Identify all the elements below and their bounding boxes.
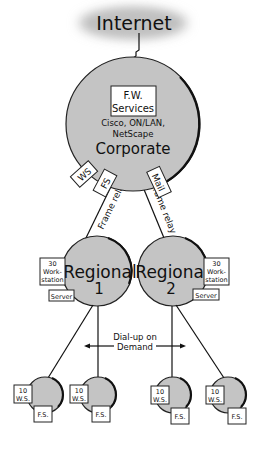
svg-text:30: 30 bbox=[48, 260, 56, 268]
vendors-line1: Cisco, ON/LAN, bbox=[101, 118, 165, 128]
dialup-annotation: Dial-up on Demand bbox=[84, 332, 186, 352]
branch-node-4: 10 W.S. F.S. bbox=[206, 377, 246, 424]
svg-text:Work-: Work- bbox=[43, 268, 62, 276]
svg-text:F.S.: F.S. bbox=[38, 411, 49, 419]
internet-label: Internet bbox=[96, 12, 171, 34]
arrow-left-icon bbox=[84, 344, 90, 349]
branch-link-1 bbox=[48, 305, 93, 378]
branch-node-3: 10 W.S. F.S. bbox=[151, 377, 191, 424]
svg-text:W.S.: W.S. bbox=[16, 395, 30, 403]
dialup-line2: Demand bbox=[117, 342, 153, 352]
svg-text:Server: Server bbox=[195, 292, 217, 300]
arrow-right-icon bbox=[180, 344, 186, 349]
fw-label: F.W. bbox=[123, 90, 142, 101]
regional-1-number: 1 bbox=[94, 280, 104, 298]
branch-node-2: 10 W.S. F.S. bbox=[70, 377, 116, 422]
svg-text:F.S.: F.S. bbox=[232, 413, 243, 421]
dialup-line1: Dial-up on bbox=[113, 332, 157, 342]
svg-text:W.S.: W.S. bbox=[208, 396, 222, 404]
svg-text:F.S.: F.S. bbox=[175, 413, 186, 421]
svg-text:30: 30 bbox=[212, 260, 220, 268]
vendors-line2: NetScape bbox=[113, 129, 154, 139]
network-diagram: Internet Frame relay Frame relay F.W. Se… bbox=[0, 0, 266, 453]
svg-text:station: station bbox=[41, 276, 63, 284]
svg-text:Server: Server bbox=[51, 293, 73, 301]
svg-text:W.S.: W.S. bbox=[153, 396, 167, 404]
svg-text:Work-: Work- bbox=[207, 268, 226, 276]
regional-1-node: Regional 1 30 Work- station Server bbox=[40, 236, 137, 306]
services-label: Services bbox=[112, 103, 154, 114]
svg-text:W.S.: W.S. bbox=[72, 395, 86, 403]
branch-link-4 bbox=[176, 305, 224, 378]
regional-1-title: Regional bbox=[63, 262, 136, 282]
internet-cloud: Internet bbox=[79, 8, 187, 38]
svg-text:F.S.: F.S. bbox=[96, 411, 107, 419]
regional-2-number: 2 bbox=[166, 280, 176, 298]
branch-node-1: 10 W.S. F.S. bbox=[14, 377, 63, 422]
corporate-title: Corporate bbox=[96, 140, 171, 158]
regional-2-title: Regional bbox=[135, 262, 208, 282]
regional-2-node: Regional 2 30 Work- station Server bbox=[135, 236, 229, 306]
svg-text:station: station bbox=[205, 276, 227, 284]
